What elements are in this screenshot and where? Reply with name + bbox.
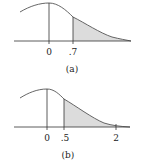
tick-label-05-b: .5 xyxy=(61,133,70,143)
tick-label-07-a: .7 xyxy=(69,47,78,57)
shaded-area-a xyxy=(73,17,131,41)
tick-label-0-b: 0 xyxy=(44,133,50,143)
panel-b: 0 .5 2 (b) xyxy=(14,89,130,160)
caption-b: (b) xyxy=(62,150,75,160)
tick-label-0-a: 0 xyxy=(46,47,52,57)
caption-a: (a) xyxy=(66,64,78,74)
shaded-area-b xyxy=(64,99,116,127)
panel-a: 0 .7 (a) xyxy=(14,3,131,74)
normal-curve-diagram: 0 .7 (a) 0 .5 2 (b) xyxy=(0,0,141,162)
tick-label-2-b: 2 xyxy=(113,133,119,143)
